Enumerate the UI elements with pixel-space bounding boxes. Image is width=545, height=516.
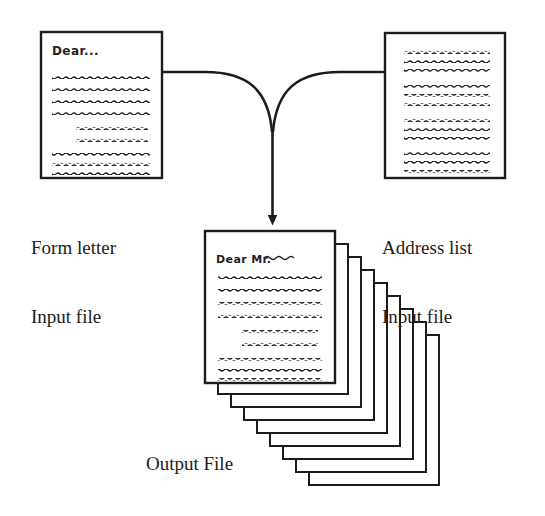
address-list-page[interactable] — [385, 33, 505, 178]
merge-arrow-right-branch — [273, 72, 385, 131]
merge-arrow — [162, 72, 385, 216]
address-list-caption: Address list Input file — [382, 190, 472, 374]
form-letter-caption: Form letter Input file — [31, 190, 116, 374]
form-letter-salutation: Dear... — [52, 44, 99, 58]
address-list-caption-line1: Address list — [382, 236, 472, 259]
merge-arrow-left-branch — [162, 72, 272, 131]
form-letter-caption-line1: Form letter — [31, 236, 116, 259]
address-list-caption-line2: Input file — [382, 305, 472, 328]
diagram-canvas: Dear... Dear Mr. Form letter Input file … — [0, 0, 545, 516]
form-letter-caption-line2: Input file — [31, 305, 116, 328]
output-salutation: Dear Mr. — [216, 253, 271, 266]
output-file-caption: Output File — [146, 452, 233, 475]
